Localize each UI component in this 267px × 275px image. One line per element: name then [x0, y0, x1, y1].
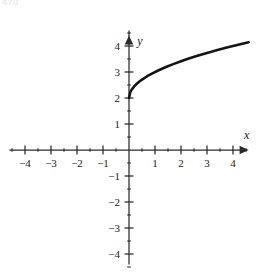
x-axis-tick-label: −4: [19, 157, 31, 169]
y-axis-tick-label: 4: [115, 40, 121, 52]
function-curve: [129, 42, 249, 98]
x-axis-label: x: [243, 128, 250, 142]
axis-name-labels-group: xy: [136, 34, 250, 142]
y-axis-arrow-icon: [125, 36, 133, 45]
y-axis-tick-label: 2: [115, 92, 121, 104]
y-axis-tick-label: 1: [115, 118, 121, 130]
x-axis-arrow-icon: [240, 146, 249, 154]
y-axis-tick-label: −3: [108, 222, 120, 234]
x-axis-tick-label: 3: [204, 157, 210, 169]
coordinate-plane-plot: −4−3−2−11234−4−3−2−11234 xy: [0, 0, 267, 275]
y-axis-tick-label: 3: [115, 66, 121, 78]
axes-group: [9, 31, 248, 265]
x-axis-tick-label: −2: [71, 157, 83, 169]
x-axis-tick-label: 2: [178, 157, 184, 169]
x-axis-tick-label: −1: [97, 157, 109, 169]
x-axis-tick-label: 1: [152, 157, 158, 169]
figure-root: 470 −4−3−2−11234−4−3−2−11234 xy: [0, 0, 267, 275]
y-axis-tick-label: −4: [108, 248, 120, 260]
x-axis-tick-label: 4: [230, 157, 236, 169]
y-axis-tick-label: −2: [108, 196, 120, 208]
y-axis-tick-label: −1: [108, 170, 120, 182]
y-axis-label: y: [136, 34, 143, 48]
x-axis-tick-label: −3: [45, 157, 57, 169]
function-curve-group: [129, 42, 249, 98]
